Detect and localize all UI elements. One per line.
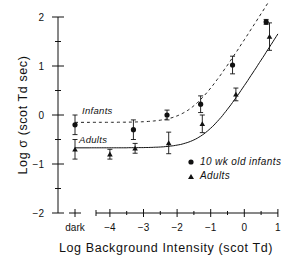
infant-data-point	[198, 102, 203, 107]
y-tick-label: −2	[33, 208, 45, 219]
y-axis-ticks: −2−1012	[33, 12, 64, 219]
y-tick-label: 2	[38, 12, 44, 23]
adult-data-point	[166, 140, 172, 145]
x-tick-label: 1	[275, 222, 281, 233]
legend-circle-marker-icon	[188, 159, 193, 164]
legend-triangle-marker-icon	[188, 174, 194, 179]
infant-data-point	[131, 127, 136, 132]
y-tick-label: 0	[38, 110, 44, 121]
adult-data-point	[107, 152, 113, 157]
adults-curve-label: Adults	[78, 134, 107, 145]
infants-curve-label: Infants	[82, 105, 113, 116]
adult-data-point	[267, 34, 273, 39]
adults-fit-curve	[75, 34, 278, 148]
infant-data-point	[264, 19, 269, 24]
infant-data-point	[164, 112, 169, 117]
infant-data-point	[230, 62, 235, 67]
y-axis-title: Log σ (scot Td sec)	[16, 56, 30, 175]
x-tick-label: 0	[242, 222, 248, 233]
y-tick-label: 1	[38, 61, 44, 72]
legend: 10 wk old infants Adults	[188, 156, 281, 181]
y-tick-label: −1	[33, 159, 45, 170]
x-tick-label: dark	[65, 222, 85, 233]
chart: −2−1012 dark−4−3−2−101 Infants Adults 10…	[0, 0, 296, 264]
x-tick-label: −1	[205, 222, 217, 233]
x-tick-label: −3	[138, 222, 150, 233]
adult-data-point	[200, 121, 206, 126]
infant-data-point	[72, 122, 77, 127]
legend-label-infants: 10 wk old infants	[200, 156, 281, 167]
x-tick-label: −2	[171, 222, 183, 233]
legend-label-adults: Adults	[199, 170, 230, 181]
x-tick-label: −4	[104, 222, 116, 233]
x-axis-title: Log Background Intensity (scot Td)	[59, 241, 273, 255]
